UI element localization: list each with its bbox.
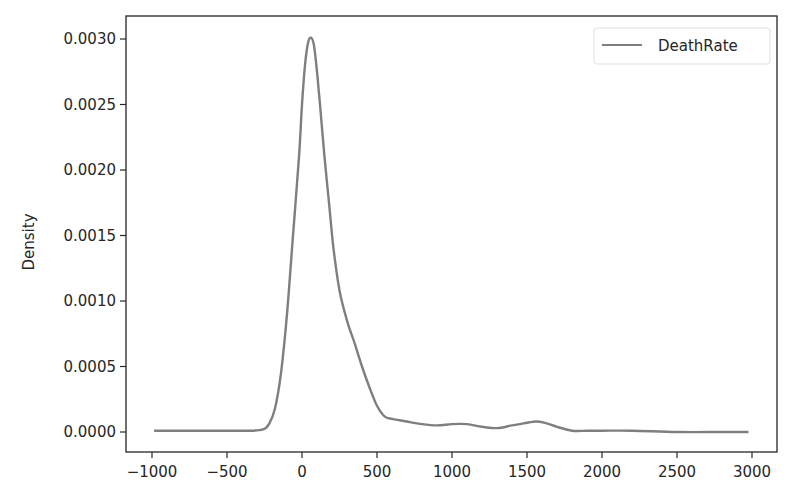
- y-tick-label: 0.0005: [64, 358, 117, 376]
- x-tick-label: 2000: [583, 463, 621, 481]
- kde-density-chart: −1000−500050010001500200025003000 0.0000…: [0, 0, 785, 497]
- y-axis: 0.00000.00050.00100.00150.00200.00250.00…: [64, 30, 127, 441]
- y-tick-label: 0.0020: [64, 161, 117, 179]
- legend-label-deathrate: DeathRate: [658, 37, 738, 55]
- plot-area: [126, 16, 777, 452]
- y-axis-label: Density: [20, 213, 38, 270]
- x-tick-label: 2500: [658, 463, 696, 481]
- x-tick-label: −500: [206, 463, 247, 481]
- y-tick-label: 0.0025: [64, 96, 117, 114]
- x-tick-label: −1000: [127, 463, 178, 481]
- y-tick-label: 0.0015: [64, 227, 117, 245]
- x-tick-label: 0: [297, 463, 307, 481]
- x-tick-label: 3000: [733, 463, 771, 481]
- y-tick-label: 0.0030: [64, 30, 117, 48]
- x-tick-label: 1500: [508, 463, 546, 481]
- x-tick-label: 1000: [433, 463, 471, 481]
- chart-canvas: −1000−500050010001500200025003000 0.0000…: [0, 0, 785, 497]
- y-tick-label: 0.0000: [64, 423, 117, 441]
- x-axis: −1000−500050010001500200025003000: [127, 452, 771, 481]
- y-tick-label: 0.0010: [64, 292, 117, 310]
- x-tick-label: 500: [363, 463, 392, 481]
- legend: DeathRate: [594, 28, 770, 64]
